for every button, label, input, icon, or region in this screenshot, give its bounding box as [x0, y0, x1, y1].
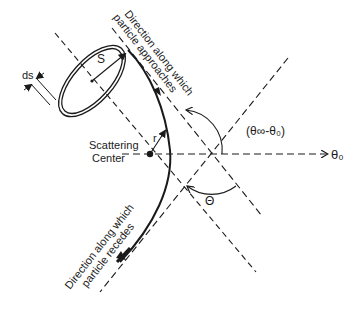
recede-label-line1: Direction along which — [62, 201, 136, 291]
r-label: r — [153, 132, 157, 144]
scattering-diagram: Direction along which particle approache… — [0, 0, 357, 319]
scattering-angle-label: Θ — [205, 194, 214, 208]
scattering-center-label-line1: Scattering — [89, 139, 139, 151]
scattering-center-label-line2: Center — [92, 152, 125, 164]
theta-zero-label: θ₀ — [331, 147, 344, 162]
approach-label-line1: Direction along which — [122, 8, 196, 98]
recede-asymptote — [100, 58, 288, 292]
ds-label: ds — [22, 69, 34, 81]
s-label: S — [97, 52, 105, 66]
diagram-canvas: Direction along which particle approache… — [0, 0, 357, 319]
recede-direction-label: Direction along which particle recedes — [62, 201, 145, 298]
angle-difference-label: (θ∞-θ₀) — [246, 124, 285, 138]
